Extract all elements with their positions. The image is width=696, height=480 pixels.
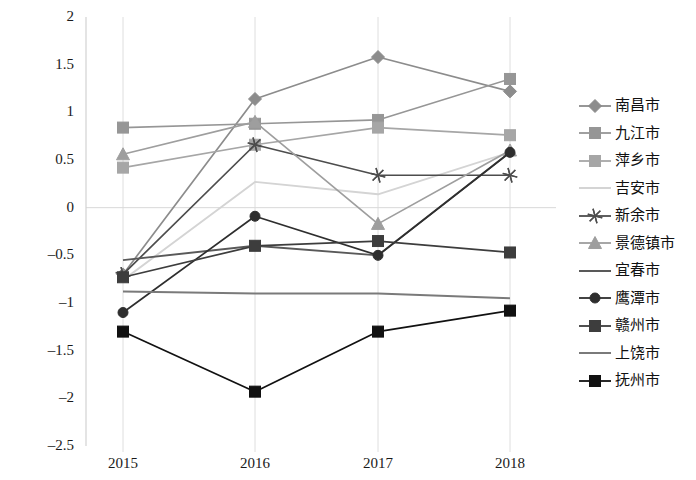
series-line xyxy=(123,57,510,274)
legend-item-8[interactable]: 鹰潭市 xyxy=(578,285,696,313)
series-3 xyxy=(118,122,516,173)
series-line xyxy=(123,128,510,168)
legend-item-3[interactable]: 萍乡市 xyxy=(578,147,696,175)
legend-swatch-square-icon xyxy=(578,124,612,142)
legend-label: 萍乡市 xyxy=(615,153,660,168)
marker-diamond xyxy=(504,85,517,98)
legend-marker-icon xyxy=(578,317,612,335)
legend-label: 鹰潭市 xyxy=(615,291,660,306)
legend-item-9[interactable]: 赣州市 xyxy=(578,312,696,340)
legend-swatch-diamond-icon xyxy=(578,97,612,115)
legend-swatch-none-icon xyxy=(578,262,612,280)
legend-marker-icon xyxy=(578,179,612,197)
y-tick-label: –1.5 xyxy=(10,343,74,358)
legend-marker-icon xyxy=(578,372,612,390)
y-tick-label: 0 xyxy=(10,200,74,215)
legend-item-10[interactable]: 上饶市 xyxy=(578,340,696,368)
y-tick-label: 1 xyxy=(10,104,74,119)
legend-item-4[interactable]: 吉安市 xyxy=(578,175,696,203)
legend-marker-icon xyxy=(578,262,612,280)
series-line xyxy=(123,145,510,275)
y-tick-label: –2.5 xyxy=(10,438,74,453)
series-line xyxy=(123,311,510,392)
y-tick-label: 0.5 xyxy=(10,152,74,167)
legend-swatch-square-icon xyxy=(578,372,612,390)
legend-item-5[interactable]: 新余市 xyxy=(578,202,696,230)
marker-circle xyxy=(590,293,600,303)
legend-label: 赣州市 xyxy=(615,318,660,333)
y-tick-label: –1 xyxy=(10,295,74,310)
y-tick-label: –2 xyxy=(10,390,74,405)
series-line xyxy=(123,241,510,277)
marker-square xyxy=(373,236,384,247)
legend-marker-icon xyxy=(578,124,612,142)
y-tick-label: 2 xyxy=(10,9,74,24)
series-10 xyxy=(123,292,510,299)
series-line xyxy=(123,292,510,299)
x-tick-label: 2017 xyxy=(348,456,408,471)
series-line xyxy=(123,79,510,128)
series-line xyxy=(123,122,510,224)
x-tick-label: 2015 xyxy=(93,456,153,471)
marker-circle xyxy=(118,308,128,318)
legend-label: 上饶市 xyxy=(615,346,660,361)
marker-square xyxy=(118,162,129,173)
legend-item-11[interactable]: 抚州市 xyxy=(578,367,696,395)
marker-diamond xyxy=(249,92,262,105)
series-11 xyxy=(118,305,516,397)
legend-marker-icon xyxy=(578,207,612,225)
legend-marker-icon xyxy=(578,289,612,307)
marker-diamond xyxy=(589,99,602,112)
legend-item-6[interactable]: 景德镇市 xyxy=(578,230,696,258)
marker-square xyxy=(590,375,601,386)
legend-item-7[interactable]: 宜春市 xyxy=(578,257,696,285)
series-2 xyxy=(118,73,516,133)
line-chart: 21.510.50–0.5–1–1.5–2–2.5 20152016201720… xyxy=(0,0,696,480)
marker-square xyxy=(250,240,261,251)
legend-marker-icon xyxy=(578,152,612,170)
series-1 xyxy=(117,51,517,281)
marker-square xyxy=(118,122,129,133)
legend-marker-icon xyxy=(578,234,612,252)
marker-square xyxy=(505,305,516,316)
legend-swatch-circle-icon xyxy=(578,289,612,307)
legend-label: 景德镇市 xyxy=(615,236,675,251)
legend-swatch-square-icon xyxy=(578,317,612,335)
marker-square xyxy=(505,130,516,141)
x-tick-label: 2016 xyxy=(225,456,285,471)
legend-swatch-none-icon xyxy=(578,179,612,197)
legend-swatch-square-icon xyxy=(578,152,612,170)
series-line xyxy=(123,152,510,312)
marker-square xyxy=(118,272,129,283)
legend-item-1[interactable]: 南昌市 xyxy=(578,92,696,120)
legend-label: 九江市 xyxy=(615,126,660,141)
marker-square xyxy=(373,122,384,133)
legend-swatch-triangle-icon xyxy=(578,234,612,252)
marker-square xyxy=(590,128,601,139)
series-9 xyxy=(118,236,516,283)
legend-label: 吉安市 xyxy=(615,181,660,196)
y-tick-label: 1.5 xyxy=(10,57,74,72)
legend-swatch-star-icon xyxy=(578,207,612,225)
marker-circle xyxy=(373,250,383,260)
marker-square xyxy=(590,155,601,166)
marker-circle xyxy=(505,147,515,157)
legend-label: 抚州市 xyxy=(615,373,660,388)
legend-marker-icon xyxy=(578,344,612,362)
marker-square xyxy=(373,326,384,337)
legend-swatch-none-icon xyxy=(578,344,612,362)
marker-square xyxy=(505,247,516,258)
y-tick-label: –0.5 xyxy=(10,247,74,262)
x-tick-label: 2018 xyxy=(480,456,540,471)
chart-legend: 南昌市九江市萍乡市吉安市新余市景德镇市宜春市鹰潭市赣州市上饶市抚州市 xyxy=(578,92,696,395)
marker-square xyxy=(505,73,516,84)
legend-label: 新余市 xyxy=(615,208,660,223)
marker-diamond xyxy=(372,51,385,64)
marker-square xyxy=(250,386,261,397)
marker-square xyxy=(118,326,129,337)
legend-label: 南昌市 xyxy=(615,98,660,113)
legend-item-2[interactable]: 九江市 xyxy=(578,120,696,148)
marker-circle xyxy=(250,211,260,221)
legend-marker-icon xyxy=(578,97,612,115)
marker-square xyxy=(590,320,601,331)
